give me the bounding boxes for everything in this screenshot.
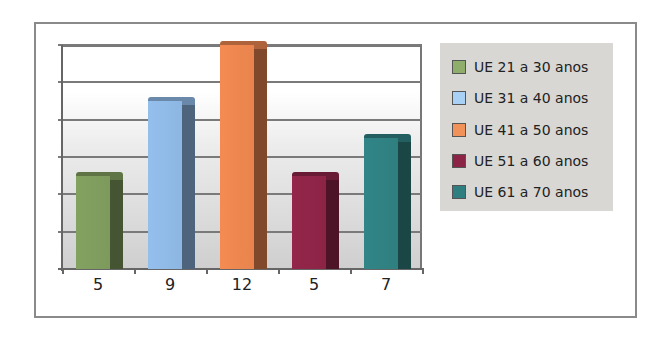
legend-item: UE 61 a 70 anos bbox=[452, 182, 588, 202]
legend-swatch bbox=[452, 91, 466, 105]
legend-swatch bbox=[452, 154, 466, 168]
legend-item: UE 51 a 60 anos bbox=[452, 151, 588, 171]
bar bbox=[148, 101, 195, 269]
x-label: 9 bbox=[150, 275, 190, 294]
legend-swatch bbox=[452, 123, 466, 137]
x-label: 5 bbox=[78, 275, 118, 294]
legend-label: UE 21 a 30 anos bbox=[474, 59, 588, 75]
x-label: 12 bbox=[222, 275, 262, 294]
legend: UE 21 a 30 anos UE 31 a 40 anos UE 41 a … bbox=[440, 43, 613, 211]
bar bbox=[292, 176, 339, 269]
bar bbox=[76, 176, 123, 269]
legend-item: UE 21 a 30 anos bbox=[452, 57, 588, 77]
legend-swatch bbox=[452, 185, 466, 199]
x-label: 5 bbox=[294, 275, 334, 294]
legend-label: UE 51 a 60 anos bbox=[474, 153, 588, 169]
legend-item: UE 41 a 50 anos bbox=[452, 120, 588, 140]
y-axis bbox=[61, 45, 63, 271]
legend-label: UE 41 a 50 anos bbox=[474, 122, 588, 138]
legend-item: UE 31 a 40 anos bbox=[452, 88, 588, 108]
bar bbox=[220, 45, 267, 269]
bar bbox=[364, 138, 411, 269]
legend-swatch bbox=[452, 60, 466, 74]
legend-label: UE 61 a 70 anos bbox=[474, 184, 588, 200]
x-tick bbox=[422, 268, 424, 274]
x-label: 7 bbox=[366, 275, 406, 294]
legend-label: UE 31 a 40 anos bbox=[474, 90, 588, 106]
